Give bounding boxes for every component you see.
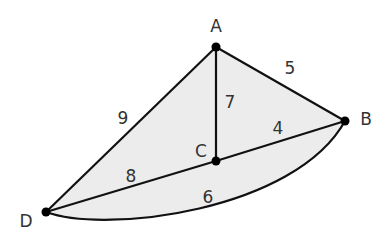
node-B [341, 117, 350, 126]
weighted-graph: 957486ABCD [0, 0, 390, 239]
edge-weight-A-B: 5 [285, 58, 296, 78]
edge-weight-A-D: 9 [118, 108, 129, 128]
node-A [212, 43, 221, 52]
edge-weight-A-C: 7 [225, 92, 236, 112]
node-C [212, 157, 221, 166]
node-label-C: C [195, 141, 207, 161]
graph-fill-region [46, 47, 345, 220]
node-D [42, 208, 51, 217]
node-label-B: B [360, 109, 372, 129]
edge-weight-D-B: 6 [203, 187, 214, 207]
edge-weight-C-B: 4 [273, 118, 284, 138]
node-label-D: D [19, 211, 32, 231]
edge-weight-D-C: 8 [126, 166, 137, 186]
node-label-A: A [210, 16, 222, 36]
